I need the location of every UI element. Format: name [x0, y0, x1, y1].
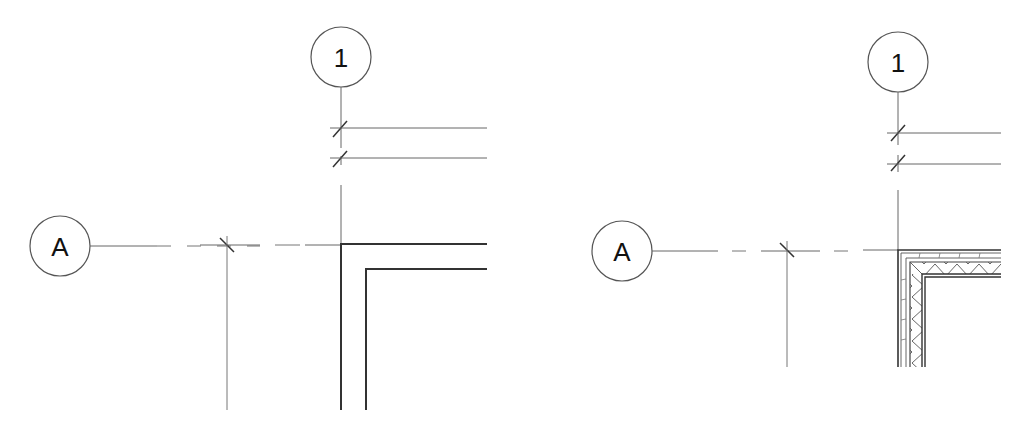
- insulation-hatch-vertical: [910, 274, 922, 367]
- grid-bubble-1-left[interactable]: 1: [311, 27, 371, 87]
- right-view: 1 A: [592, 32, 1001, 367]
- grid-label-a: A: [613, 237, 631, 267]
- grid-bubble-a-left[interactable]: A: [30, 216, 90, 276]
- wall-inner-face: [366, 269, 487, 410]
- dimension-tick-icon: [333, 121, 347, 137]
- grid-bubble-1-right[interactable]: 1: [868, 32, 928, 92]
- insulation-hatch-horizontal: [922, 262, 1001, 274]
- layered-wall-corner: [898, 250, 1001, 367]
- drawing-canvas: 1 A: [0, 0, 1028, 427]
- grid-label-1: 1: [891, 48, 905, 78]
- dimension-tick-icon: [333, 151, 347, 167]
- left-view: 1 A: [30, 27, 487, 410]
- grid-label-1: 1: [334, 43, 348, 73]
- grid-label-a: A: [51, 232, 69, 262]
- grid-bubble-a-right[interactable]: A: [592, 221, 652, 281]
